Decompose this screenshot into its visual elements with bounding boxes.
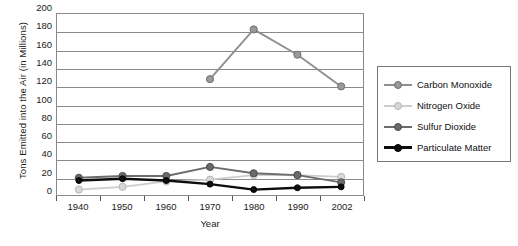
- data-point-marker: [207, 181, 213, 187]
- legend-swatch: [384, 142, 412, 154]
- y-axis-tick-label: 80: [41, 113, 52, 123]
- y-axis-tick-label: 20: [41, 168, 52, 178]
- legend-swatch: [384, 79, 412, 91]
- x-axis-tick-label: 1950: [100, 201, 144, 213]
- data-point-marker: [206, 163, 213, 170]
- x-axis-tick-labels: 1940195019601970198019902002: [56, 201, 364, 215]
- y-axis-tick-label: 0: [47, 186, 52, 196]
- data-point-marker: [250, 26, 257, 33]
- legend-marker: [394, 144, 402, 152]
- plot-area: [56, 13, 364, 196]
- x-axis-tick-label: 1990: [276, 201, 320, 213]
- legend-item[interactable]: Sulfur Dioxide: [384, 116, 510, 137]
- data-point-marker: [206, 76, 213, 83]
- y-axis-tick-label: 60: [41, 131, 52, 141]
- y-axis-tick-label: 200: [36, 3, 52, 13]
- x-axis-tick-label: 2002: [320, 201, 364, 213]
- data-point-marker: [294, 185, 300, 191]
- plot-svg: [57, 14, 363, 195]
- legend-item[interactable]: Nitrogen Oxide: [384, 95, 510, 116]
- emissions-line-chart: Tons Emitted into the Air (in Millions) …: [0, 0, 518, 246]
- series-line: [210, 29, 341, 86]
- legend-item[interactable]: Carbon Monoxide: [384, 74, 510, 95]
- y-axis-tick-label: 120: [36, 76, 52, 86]
- legend-item[interactable]: Particulate Matter: [384, 137, 510, 158]
- x-axis-tick: [364, 196, 365, 201]
- data-point-marker: [76, 178, 82, 184]
- legend-swatch: [384, 100, 412, 112]
- y-axis-tick-label: 160: [36, 40, 52, 50]
- chart-legend: Carbon MonoxideNitrogen OxideSulfur Diox…: [377, 66, 511, 162]
- x-axis-tick-label: 1980: [232, 201, 276, 213]
- x-axis-tick-label: 1940: [56, 201, 100, 213]
- data-point-marker: [338, 184, 344, 190]
- legend-swatch: [384, 121, 412, 133]
- legend-marker: [394, 102, 402, 110]
- data-point-marker: [251, 187, 257, 193]
- legend-item-label: Particulate Matter: [417, 142, 491, 153]
- data-point-marker: [75, 186, 82, 193]
- data-point-marker: [119, 183, 126, 190]
- y-axis-tick-labels: 020406080100120140160180200: [26, 8, 52, 196]
- y-axis-tick-label: 100: [36, 95, 52, 105]
- legend-marker: [394, 123, 402, 131]
- data-point-marker: [294, 51, 301, 58]
- data-point-marker: [294, 172, 301, 179]
- y-axis-tick-label: 40: [41, 149, 52, 159]
- x-axis-title: Year: [56, 218, 364, 229]
- x-axis-tick-label: 1960: [144, 201, 188, 213]
- data-point-marker: [163, 178, 169, 184]
- legend-item-label: Sulfur Dioxide: [417, 121, 476, 132]
- y-axis-tick-label: 180: [36, 21, 52, 31]
- data-point-marker: [250, 170, 257, 177]
- y-axis-tick-label: 140: [36, 58, 52, 68]
- legend-item-label: Carbon Monoxide: [417, 79, 492, 90]
- legend-item-label: Nitrogen Oxide: [417, 100, 480, 111]
- data-point-marker: [338, 83, 345, 90]
- data-point-marker: [120, 176, 126, 182]
- legend-marker: [394, 81, 402, 89]
- x-axis-tick-label: 1970: [188, 201, 232, 213]
